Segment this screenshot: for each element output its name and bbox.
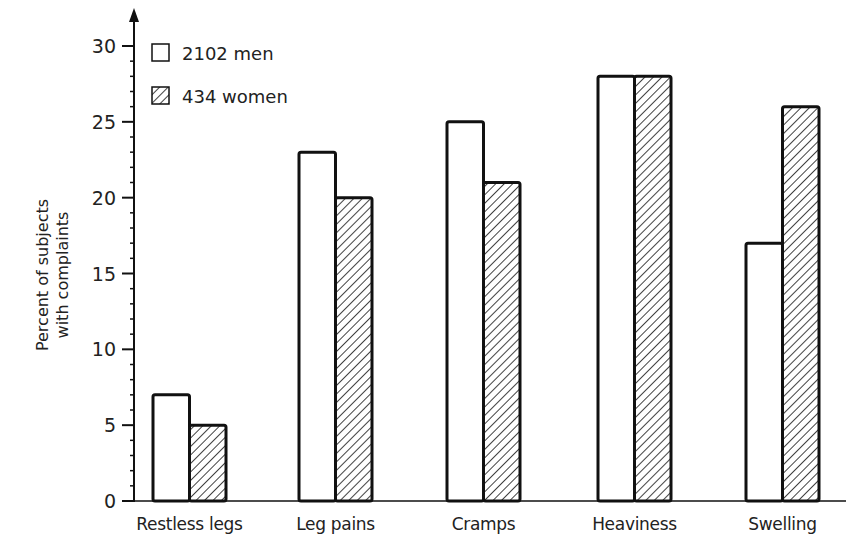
open-swatch-icon <box>152 44 169 61</box>
bar-women <box>484 183 521 502</box>
y-tick-label: 15 <box>92 263 116 285</box>
bar-women <box>336 198 373 501</box>
y-tick-label: 0 <box>104 490 116 512</box>
x-category-label: Leg pains <box>296 514 375 534</box>
y-tick-label: 20 <box>92 187 116 209</box>
bar-chart: 051015202530 Percent of subjectswith com… <box>0 0 854 557</box>
bar-group <box>447 122 520 501</box>
bar-group <box>746 107 819 501</box>
bar-men <box>746 243 783 501</box>
y-tick-label: 25 <box>92 111 116 133</box>
y-tick-label: 30 <box>92 35 116 57</box>
hatched-swatch-icon <box>152 87 169 104</box>
y-label-line: with complaints <box>53 212 72 339</box>
bar-group <box>299 152 372 501</box>
legend-item: 434 women <box>152 86 288 107</box>
bar-group <box>153 395 226 501</box>
axis-arrow-icon <box>129 8 139 22</box>
legend: 2102 men434 women <box>152 43 288 107</box>
x-category-label: Cramps <box>452 514 516 534</box>
y-axis-label: Percent of subjectswith complaints <box>33 199 72 351</box>
bars <box>153 76 819 501</box>
y-tick-label: 5 <box>104 414 116 436</box>
legend-label: 2102 men <box>182 43 274 64</box>
bar-men <box>447 122 484 501</box>
x-category-label: Restless legs <box>136 514 243 534</box>
bar-women <box>635 76 672 501</box>
x-category-label: Heaviness <box>592 514 677 534</box>
x-axis: Restless legsLeg painsCrampsHeavinessSwe… <box>122 501 846 534</box>
legend-item: 2102 men <box>152 43 274 64</box>
legend-label: 434 women <box>182 86 288 107</box>
bar-men <box>598 76 635 501</box>
y-axis: 051015202530 <box>92 8 139 512</box>
x-category-label: Swelling <box>748 514 817 534</box>
bar-women <box>783 107 820 501</box>
bar-men <box>299 152 336 501</box>
y-label-line: Percent of subjects <box>33 199 52 351</box>
bar-group <box>598 76 671 501</box>
y-tick-label: 10 <box>92 338 116 360</box>
bar-men <box>153 395 190 501</box>
bar-women <box>190 425 227 501</box>
